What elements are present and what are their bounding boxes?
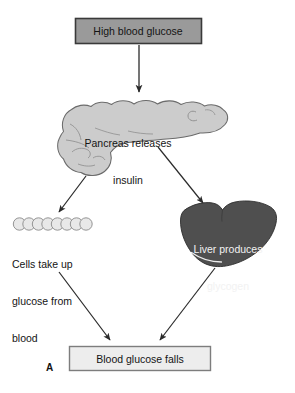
liver-label-line-2: glycogen — [182, 280, 274, 292]
cells-label: Cells take up glucose from blood — [12, 233, 112, 369]
high-glucose-box-label: High blood glucose — [78, 25, 198, 37]
pancreas-label-line-1: Pancreas releases — [68, 137, 188, 149]
cell-8 — [80, 218, 92, 230]
liver-label-line-1: Liver produces — [182, 243, 274, 255]
cells-label-line-3: blood — [12, 332, 112, 344]
pancreas-label-line-2: insulin — [68, 174, 188, 186]
cells-label-line-1: Cells take up — [12, 258, 112, 270]
insulin-feedback-diagram: High blood glucose Pancreas releases ins… — [0, 0, 295, 393]
cells-label-line-2: glucose from — [12, 295, 112, 307]
panel-letter-label: A — [46, 362, 53, 374]
pancreas-label: Pancreas releases insulin — [68, 112, 188, 211]
liver-label: Liver produces glycogen — [182, 218, 274, 317]
cell-chain-shape — [13, 218, 92, 230]
glucose-falls-box-label: Blood glucose falls — [70, 353, 210, 365]
